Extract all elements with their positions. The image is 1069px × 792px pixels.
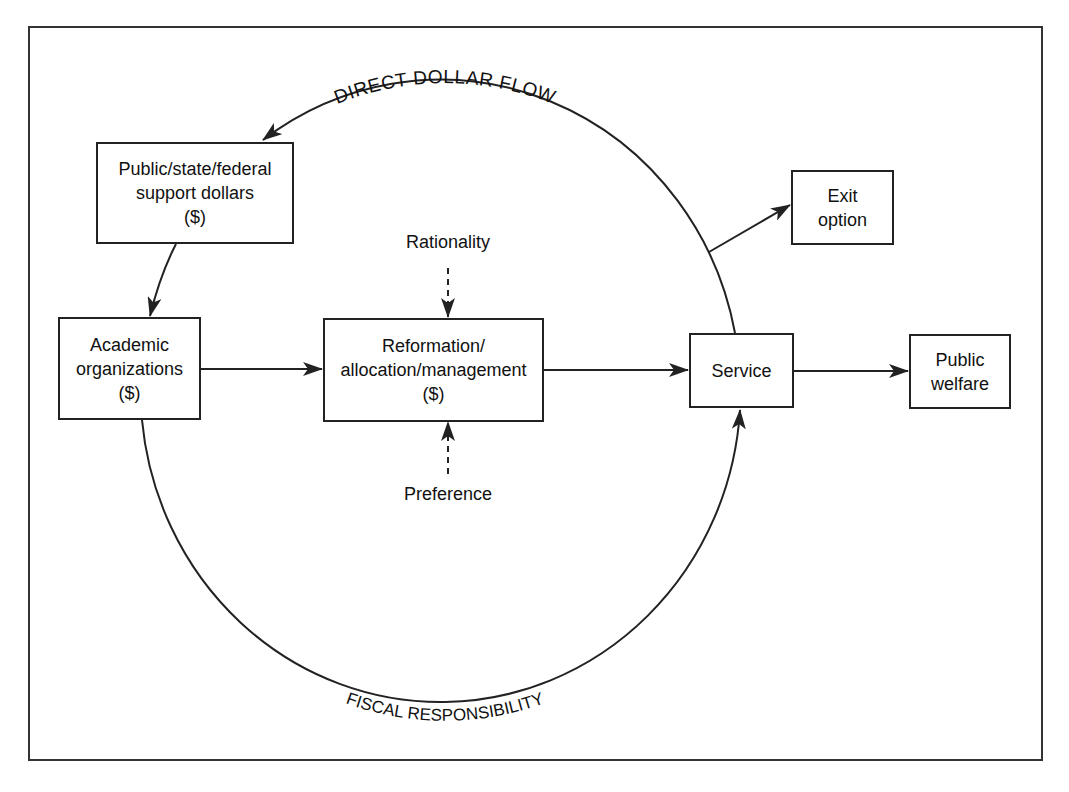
direct-dollar-flow-arc (263, 80, 735, 333)
support-dollars-node: Public/state/federal support dollars ($) (96, 142, 294, 244)
preference-label: Preference (388, 484, 508, 505)
service-node: Service (689, 333, 794, 408)
diagram-canvas: DIRECT DOLLAR FLOW FISCAL RESPONSIBILITY… (0, 0, 1069, 792)
node-line: allocation/management (340, 358, 526, 382)
rationality-label: Rationality (388, 232, 508, 253)
node-line: ($) (423, 382, 445, 406)
node-line: Public (935, 348, 984, 372)
support-to-academic-arrow (150, 244, 176, 316)
node-line: Service (711, 359, 771, 383)
node-line: Reformation/ (382, 334, 485, 358)
node-line: ($) (119, 381, 141, 405)
public-welfare-node: Public welfare (909, 334, 1011, 409)
reformation-node: Reformation/ allocation/management ($) (323, 318, 544, 422)
node-line: support dollars (136, 181, 254, 205)
node-line: Academic (90, 333, 169, 357)
arc-to-exit-arrow (709, 205, 790, 252)
exit-option-node: Exit option (791, 170, 894, 245)
node-line: Exit (827, 184, 857, 208)
direct-dollar-flow-label: DIRECT DOLLAR FLOW (331, 66, 559, 108)
fiscal-responsibility-arc (142, 410, 740, 702)
node-line: organizations (76, 357, 183, 381)
node-line: option (818, 208, 867, 232)
node-line: Public/state/federal (118, 157, 271, 181)
academic-organizations-node: Academic organizations ($) (58, 317, 201, 420)
node-line: ($) (184, 205, 206, 229)
node-line: welfare (931, 372, 989, 396)
